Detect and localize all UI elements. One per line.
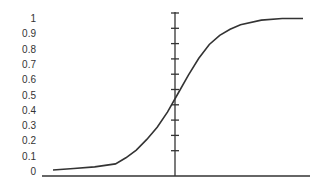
- y-axis-labels: 00.10.20.30.40.50.60.70.80.91: [22, 13, 36, 177]
- y-tick-label: 0.4: [22, 105, 36, 116]
- sigmoid-curve: [53, 19, 303, 171]
- y-tick-label: 0.8: [22, 44, 36, 55]
- y-tick-label: 0.1: [22, 151, 36, 162]
- y-tick-label: 0.5: [22, 90, 36, 101]
- y-tick-label: 0.2: [22, 135, 36, 146]
- y-tick-label: 0.6: [22, 74, 36, 85]
- y-tick-label: 0.9: [22, 28, 36, 39]
- y-tick-label: 0.7: [22, 59, 36, 70]
- y-tick-label: 1: [30, 13, 36, 24]
- y-tick-label: 0: [30, 166, 36, 177]
- y-tick-label: 0.3: [22, 120, 36, 131]
- sigmoid-chart: 00.10.20.30.40.50.60.70.80.91: [0, 0, 318, 185]
